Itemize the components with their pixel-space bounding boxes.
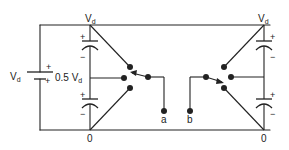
- top-left-vd-label: Vd: [85, 13, 96, 25]
- right-switch-pivot: [203, 74, 209, 80]
- right-lower-cap-minus: −: [270, 109, 275, 119]
- left-lower-cap-minus: −: [80, 109, 85, 119]
- circuit-diagram: + + Vd 0.5 Vd + − + − a: [0, 0, 289, 150]
- right-upper-cap-minus: −: [270, 52, 275, 62]
- right-upper-cap-plus: +: [270, 32, 275, 42]
- left-switch-mid-contact: [121, 75, 127, 81]
- left-bottom-diagonal: [90, 88, 130, 130]
- right-lower-cap-plus: +: [270, 90, 275, 100]
- source-label: Vd: [10, 71, 21, 83]
- top-right-vd-label: Vd: [258, 13, 269, 25]
- right-switch-mid-contact: [228, 74, 234, 80]
- bottom-left-zero-label: 0: [87, 133, 93, 144]
- left-switch-arrow-icon: [130, 70, 137, 76]
- right-switch-top-contact: [221, 64, 227, 70]
- midpoint-label: 0.5 Vd: [55, 72, 82, 84]
- right-top-diagonal: [224, 25, 264, 67]
- left-lower-cap-plus: +: [80, 90, 85, 100]
- left-upper-cap-minus: −: [80, 52, 85, 62]
- left-top-diagonal: [90, 25, 130, 67]
- left-switch-pivot: [145, 74, 151, 80]
- bottom-right-zero-label: 0: [261, 133, 267, 144]
- terminal-b-label: b: [187, 114, 193, 125]
- right-switch-bottom-contact: [221, 85, 227, 91]
- right-switch-arrow-icon: [216, 78, 224, 84]
- left-switch-bottom-contact: [127, 85, 133, 91]
- left-upper-cap-plus: +: [80, 32, 85, 42]
- right-bottom-diagonal: [224, 88, 264, 130]
- source-plus-sign: +: [46, 62, 51, 72]
- terminal-a-label: a: [161, 114, 167, 125]
- source-minus-sign: +: [45, 76, 50, 86]
- left-switch-top-contact: [127, 64, 133, 70]
